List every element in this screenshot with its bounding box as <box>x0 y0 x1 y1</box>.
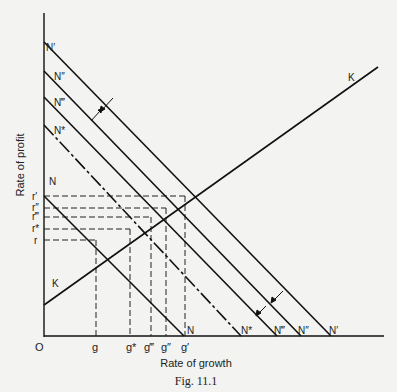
line-n <box>44 196 184 336</box>
shift-arrow-bottom-1 <box>271 291 283 303</box>
line-n-star <box>44 125 241 336</box>
label-r-triple: r‴ <box>32 211 39 222</box>
label-g-prime: g′ <box>181 341 189 353</box>
label-n-prime-top: N′ <box>46 42 55 53</box>
label-n-star-bottom: N* <box>241 325 252 336</box>
figure-caption: Fig. 11.1 <box>175 374 218 388</box>
label-n-star-top: N* <box>54 125 65 136</box>
label-n-triple-top: N‴ <box>54 97 65 108</box>
origin-label: O <box>35 341 44 353</box>
label-n-double-bottom: N″ <box>298 325 309 336</box>
shift-arrow-top-2 <box>91 109 102 121</box>
label-k-top: K <box>348 72 355 83</box>
label-n-double-top: N″ <box>54 71 65 82</box>
x-axis-label: Rate of growth <box>160 357 232 369</box>
label-g-star: g* <box>126 341 137 353</box>
figure-11-1-diagram: N′ N″ N‴ N* N K K r′ r″ r‴ r* r Rate of … <box>0 0 397 392</box>
label-n-top: N <box>49 176 56 187</box>
label-g: g <box>92 341 98 353</box>
label-n-prime-bottom: N′ <box>329 325 338 336</box>
label-r-prime: r′ <box>32 191 37 202</box>
shift-arrow-bottom-2 <box>256 306 266 316</box>
label-n-triple-bottom: N‴ <box>274 325 285 336</box>
line-n-triple-prime <box>44 97 277 336</box>
line-n-double-prime <box>44 71 301 336</box>
label-r-star: r* <box>32 223 39 234</box>
label-g-double: g″ <box>161 341 171 353</box>
y-axis-label: Rate of profit <box>14 134 26 197</box>
line-n-prime <box>44 42 331 336</box>
label-n-bottom: N <box>187 325 194 336</box>
label-g-triple: g‴ <box>144 341 154 353</box>
label-k-bottom: K <box>52 278 59 289</box>
label-r: r <box>34 235 38 246</box>
